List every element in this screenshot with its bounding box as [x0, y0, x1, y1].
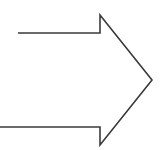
- arrow-diagram: [0, 0, 166, 150]
- right-arrow-icon: [0, 15, 152, 145]
